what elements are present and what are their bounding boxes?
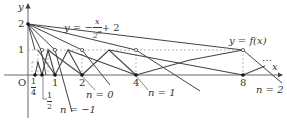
x-tick-1: 1	[52, 78, 58, 88]
dashed-verticals	[32, 50, 243, 75]
f-curve	[35, 50, 265, 75]
y-tick-1: 1	[18, 45, 24, 55]
y-tick-2: 2	[18, 19, 24, 29]
n-label-minus-1: n = −1	[60, 105, 96, 115]
x-tick-4: 4	[133, 78, 139, 88]
x-tick-2: 2	[79, 78, 85, 88]
ellipsis: …	[262, 53, 272, 63]
x-tick-8: 8	[240, 78, 246, 88]
line-family-label: y = −x2n+ 2	[64, 18, 120, 40]
x-axis-label: x	[272, 62, 278, 72]
x-tick-half: 12	[47, 92, 52, 111]
n-label-1: n = 1	[148, 88, 176, 98]
x-tick-quarter: 14	[31, 78, 36, 97]
n-label-0: n = 0	[86, 90, 114, 100]
n-label-2: n = 2	[256, 85, 284, 95]
f-curve-label: y = f(x)	[229, 36, 267, 46]
y-axis-label: y	[18, 2, 24, 12]
function-graph	[0, 0, 287, 124]
origin-label: O	[18, 78, 26, 88]
